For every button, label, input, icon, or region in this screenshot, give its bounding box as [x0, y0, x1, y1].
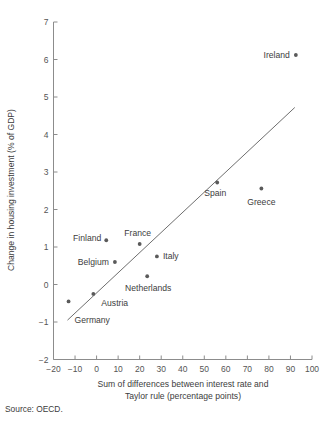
- x-tick-label: 50: [200, 364, 210, 374]
- data-point-label-finland: Finland: [73, 233, 101, 243]
- x-axis-tick-labels: −20−100102030405060708090100: [46, 364, 319, 374]
- y-tick-label: 5: [44, 92, 49, 102]
- data-point-label-germany: Germany: [75, 315, 111, 325]
- data-point-belgium: [113, 260, 117, 264]
- data-point-france: [138, 242, 142, 246]
- y-tick-label: 4: [44, 130, 49, 140]
- y-tick-label: 7: [44, 17, 49, 27]
- x-tick-label: 90: [286, 364, 296, 374]
- x-tick-label: 0: [94, 364, 99, 374]
- regression-line: [68, 108, 295, 321]
- data-point-label-greece: Greece: [247, 197, 275, 207]
- x-tick-label: −20: [46, 364, 61, 374]
- y-axis-ticks: [54, 22, 58, 360]
- trend-line-group: [68, 108, 295, 321]
- y-tick-label: 6: [44, 55, 49, 65]
- x-tick-label: 20: [135, 364, 145, 374]
- x-tick-label: 30: [156, 364, 166, 374]
- chart-figure: −20−100102030405060708090100 −2−10123456…: [0, 0, 336, 434]
- y-tick-label: 3: [44, 167, 49, 177]
- x-axis-title-line2: Taylor rule (percentage points): [125, 391, 241, 401]
- data-point-netherlands: [145, 274, 149, 278]
- data-point-germany: [67, 299, 71, 303]
- plot-axes: [54, 22, 313, 360]
- y-axis-tick-labels: −2−101234567: [39, 17, 49, 365]
- y-axis-title: Change in housing investment (% of GDP): [6, 109, 16, 271]
- data-point-label-france: France: [124, 228, 151, 238]
- data-point-label-austria: Austria: [101, 298, 128, 308]
- x-axis-title-line1: Sum of differences between interest rate…: [98, 379, 269, 389]
- data-point-label-netherlands: Netherlands: [125, 283, 171, 293]
- y-tick-label: 2: [44, 205, 49, 215]
- x-tick-label: 40: [178, 364, 188, 374]
- data-point-greece: [259, 187, 263, 191]
- data-point-label-spain: Spain: [204, 188, 226, 198]
- y-tick-label: −2: [39, 355, 49, 365]
- data-point-finland: [104, 238, 108, 242]
- x-tick-label: 60: [221, 364, 231, 374]
- data-point-label-belgium: Belgium: [78, 257, 109, 267]
- source-row: Source: OECD.: [0, 404, 336, 434]
- x-axis-ticks: [54, 356, 313, 360]
- data-point-spain: [215, 181, 219, 185]
- x-tick-label: 70: [243, 364, 253, 374]
- x-tick-label: −10: [68, 364, 83, 374]
- x-tick-label: 10: [113, 364, 123, 374]
- y-tick-label: 1: [44, 242, 49, 252]
- data-point-label-ireland: Ireland: [264, 50, 290, 60]
- source-note: Source: OECD.: [5, 404, 63, 414]
- scatter-plot-canvas: −20−100102030405060708090100 −2−10123456…: [0, 0, 336, 434]
- x-tick-label: 100: [305, 364, 319, 374]
- y-tick-label: −1: [39, 317, 49, 327]
- data-point-ireland: [294, 53, 298, 57]
- data-point-label-italy: Italy: [163, 251, 179, 261]
- y-tick-label: 0: [44, 280, 49, 290]
- data-point-austria: [91, 292, 95, 296]
- data-point-italy: [155, 254, 159, 258]
- x-tick-label: 80: [264, 364, 274, 374]
